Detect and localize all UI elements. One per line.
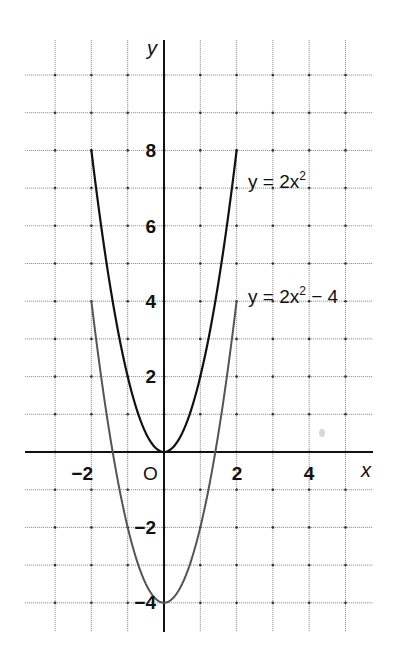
grid-intersection-dot [272, 338, 275, 341]
x-tick-label: −2 [71, 463, 93, 484]
grid-intersection-dot [199, 225, 202, 228]
grid-intersection-dot [199, 74, 202, 77]
grid-intersection-dot [308, 187, 311, 190]
grid-intersection-dot [344, 413, 347, 416]
grid-intersection-dot [54, 187, 57, 190]
y-tick-label: 6 [145, 216, 156, 237]
origin-label: O [143, 463, 158, 484]
grid-intersection-dot [54, 338, 57, 341]
grid-intersection-dot [235, 74, 238, 77]
y-axis-label: y [145, 37, 158, 59]
grid-intersection-dot [272, 375, 275, 378]
grid-intersection-dot [308, 602, 311, 605]
grid-intersection-dot [199, 564, 202, 567]
grid-intersection-dot [272, 74, 275, 77]
grid-intersection-dot [54, 262, 57, 265]
grid-intersection-dot [235, 225, 238, 228]
grid-intersection-dot [54, 488, 57, 491]
grid-intersection-dot [344, 526, 347, 529]
grid-intersection-dot [344, 111, 347, 114]
grid-intersection-dot [54, 74, 57, 77]
grid-intersection-dot [308, 375, 311, 378]
y-tick-label: 4 [145, 291, 156, 312]
grid-intersection-dot [344, 300, 347, 303]
grid-intersection-dot [235, 602, 238, 605]
grid-intersection-dot [272, 488, 275, 491]
series-label-base: y = 2x [248, 171, 300, 192]
grid-intersection-dot [344, 488, 347, 491]
grid-intersection-dot [344, 564, 347, 567]
grid-intersection-dot [126, 149, 129, 152]
grid-intersection-dot [199, 111, 202, 114]
grid-intersection-dot [344, 74, 347, 77]
grid-intersection-dot [126, 74, 129, 77]
grid-intersection-dot [199, 149, 202, 152]
grid-intersection-dot [90, 74, 93, 77]
grid-intersection-dot [235, 488, 238, 491]
grid-intersection-dot [235, 262, 238, 265]
grid-intersection-dot [126, 338, 129, 341]
grid-intersection-dot [54, 564, 57, 567]
grid-intersection-dot [235, 187, 238, 190]
grid-intersection-dot [126, 262, 129, 265]
grid-intersection-dot [199, 413, 202, 416]
grid-intersection-dot [235, 413, 238, 416]
grid-intersection-dot [235, 526, 238, 529]
grid-intersection-dot [90, 526, 93, 529]
grid-intersection-dot [308, 564, 311, 567]
grid-intersection-dot [344, 602, 347, 605]
grid-intersection-dot [54, 602, 57, 605]
series-label-sup: 2 [299, 169, 306, 183]
axes [25, 40, 373, 632]
grid-intersection-dot [272, 262, 275, 265]
grid-intersection-dot [235, 375, 238, 378]
series-label-tail: − 4 [306, 286, 339, 307]
grid-intersection-dot [90, 488, 93, 491]
grid-intersection-dot [90, 602, 93, 605]
grid-intersection-dot [90, 564, 93, 567]
y-tick-label: −4 [134, 592, 156, 613]
grid-intersection-dot [344, 338, 347, 341]
grid-intersection-dot [126, 187, 129, 190]
grid-intersection-dot [344, 149, 347, 152]
grid-intersection-dot [308, 149, 311, 152]
y-tick-label: 8 [145, 140, 156, 161]
grid-intersection-dot [308, 526, 311, 529]
grid-intersection-dot [199, 488, 202, 491]
grid-intersection-dot [90, 111, 93, 114]
series-label-base: y = 2x [248, 286, 300, 307]
grid-intersection-dot [90, 262, 93, 265]
grid-intersection-dot [126, 300, 129, 303]
grid-intersection-dot [308, 225, 311, 228]
grid-intersection-dot [126, 602, 129, 605]
grid-intersection-dot [272, 564, 275, 567]
series-label-y-2x2-minus-4: y = 2x2 − 4 [248, 284, 339, 307]
y-tick-label: −2 [134, 517, 156, 538]
grid-intersection-dot [235, 564, 238, 567]
grid-intersection-dot [272, 225, 275, 228]
grid-intersection-dot [308, 338, 311, 341]
grid-intersection-dot [308, 413, 311, 416]
grid-intersection-dot [126, 111, 129, 114]
grid-intersection-dot [344, 262, 347, 265]
grid-intersection-dot [272, 602, 275, 605]
grid-intersection-dot [308, 74, 311, 77]
grid-intersection-dot [90, 187, 93, 190]
grid-intersection-dot [199, 602, 202, 605]
grid-intersection-dot [54, 300, 57, 303]
grid-intersection-dot [308, 111, 311, 114]
grid-intersection-dot [90, 413, 93, 416]
grid-intersection-dot [235, 338, 238, 341]
y-tick-label: 2 [145, 366, 156, 387]
grid-intersection-dot [90, 338, 93, 341]
grid-intersection-dot [199, 262, 202, 265]
grid [25, 40, 373, 632]
x-tick-label: 4 [304, 463, 315, 484]
grid-intersection-dot [126, 225, 129, 228]
x-tick-label: 2 [232, 463, 243, 484]
grid-intersection-dot [272, 149, 275, 152]
series-label-y-2x2: y = 2x2 [248, 169, 306, 192]
parabola-chart: y x O −2 2 4 8 6 4 2 −2 −4 y = 2x2 y = 2… [0, 0, 399, 671]
grid-intersection-dot [199, 300, 202, 303]
scan-smudge [319, 429, 325, 437]
